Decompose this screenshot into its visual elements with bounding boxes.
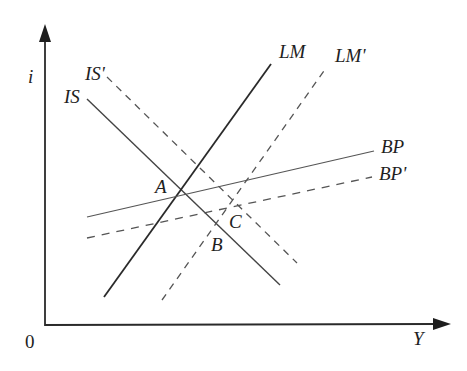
- is-lm-bp-diagram: i Y 0 IS IS' LM LM' BP BP' A B C: [0, 0, 467, 371]
- bp-curve: [87, 151, 374, 217]
- point-b-label: B: [211, 234, 223, 255]
- is-prime-curve: [107, 77, 297, 263]
- point-a-label: A: [153, 176, 167, 197]
- point-c-label: C: [229, 211, 242, 232]
- y-axis-arrow-icon: [39, 24, 51, 42]
- is-prime-label: IS': [84, 63, 106, 84]
- x-axis-arrow-icon: [433, 318, 451, 330]
- lm-prime-label: LM': [334, 45, 366, 66]
- origin-label: 0: [25, 331, 35, 352]
- is-curve: [87, 99, 280, 285]
- bp-label: BP: [381, 136, 405, 157]
- is-label: IS: [63, 86, 80, 107]
- bp-prime-label: BP': [379, 163, 407, 184]
- y-axis-label: i: [28, 66, 33, 87]
- x-axis: [45, 324, 435, 325]
- x-axis-label: Y: [413, 328, 426, 349]
- lm-label: LM: [278, 41, 307, 62]
